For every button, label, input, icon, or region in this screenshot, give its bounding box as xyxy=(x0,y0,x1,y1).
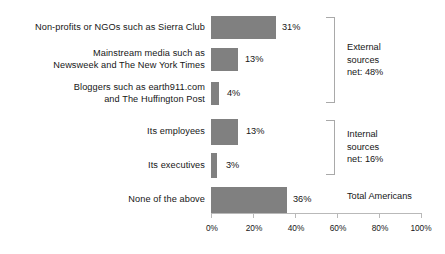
x-axis-tick-60 xyxy=(337,213,338,218)
bar-bloggers xyxy=(211,82,219,105)
value-label-mainstream-media: 13% xyxy=(245,54,263,65)
bar-its-executives xyxy=(211,153,217,178)
bracket-internal-sources xyxy=(326,120,335,175)
x-axis-tick-0 xyxy=(211,213,212,218)
x-axis-tick-label-40: 40% xyxy=(288,223,305,233)
bar-none-of-the-above xyxy=(211,187,287,213)
category-label-mainstream-media: Mainstream media such as Newsweek and Th… xyxy=(53,48,205,71)
bracket-external-sources xyxy=(326,17,335,103)
x-axis-tick-label-20: 20% xyxy=(246,223,263,233)
group-note-external-sources: External sources net: 48% xyxy=(347,41,383,79)
value-label-none-of-the-above: 36% xyxy=(293,194,311,205)
value-label-its-executives: 3% xyxy=(226,160,239,171)
bar-its-employees xyxy=(211,119,238,145)
category-label-its-executives: Its executives xyxy=(148,160,205,172)
bar-non-profits xyxy=(211,16,276,39)
x-axis-line xyxy=(211,213,421,214)
x-axis-tick-label-80: 80% xyxy=(372,223,389,233)
value-label-its-employees: 13% xyxy=(246,126,264,137)
group-note-total-americans: Total Americans xyxy=(347,191,412,202)
category-label-non-profits: Non-profits or NGOs such as Sierra Club xyxy=(35,22,205,34)
value-label-bloggers: 4% xyxy=(227,88,240,99)
bar-mainstream-media xyxy=(211,48,238,71)
x-axis-tick-80 xyxy=(379,213,380,218)
value-label-non-profits: 31% xyxy=(282,22,300,33)
x-axis-tick-40 xyxy=(295,213,296,218)
x-axis-tick-20 xyxy=(253,213,254,218)
category-label-bloggers: Bloggers such as earth911.com and The Hu… xyxy=(74,82,205,105)
category-label-its-employees: Its employees xyxy=(147,126,205,138)
x-axis-tick-label-60: 60% xyxy=(330,223,347,233)
x-axis-tick-label-100: 100% xyxy=(410,223,431,233)
category-label-none-of-the-above: None of the above xyxy=(128,194,205,206)
x-axis-tick-label-0: 0% xyxy=(206,223,218,233)
x-axis-tick-100 xyxy=(421,213,422,218)
group-note-internal-sources: Internal sources net: 16% xyxy=(347,128,383,166)
horizontal-bar-chart: Non-profits or NGOs such as Sierra Club … xyxy=(0,0,445,254)
